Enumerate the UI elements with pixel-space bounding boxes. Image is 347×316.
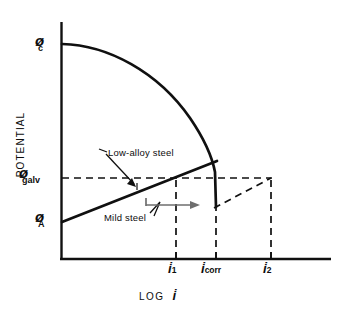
low-alloy-steel-annotation: Low-alloy steel bbox=[108, 147, 174, 158]
mild-steel-anodic-line-dashed bbox=[214, 178, 271, 208]
low-alloy-steel-arrowhead bbox=[127, 178, 136, 187]
i1-label: i̇1 bbox=[168, 261, 176, 276]
mild-steel-annotation: Mild steel bbox=[104, 212, 146, 223]
cathodic-curve bbox=[62, 44, 216, 207]
phi-galv-label: ø galv bbox=[19, 165, 40, 185]
icorr-subscript: corr bbox=[205, 265, 222, 275]
corrosion-rate-shift-arrow bbox=[146, 198, 200, 209]
phi-a-label: ø A bbox=[35, 209, 45, 229]
axis-lines bbox=[60, 22, 331, 260]
i1-subscript: 1 bbox=[172, 265, 177, 275]
i2-label: i̇2 bbox=[263, 261, 271, 276]
phi-galv-subscript: galv bbox=[22, 176, 40, 185]
x-axis-title-symbol: i̇ bbox=[169, 288, 178, 303]
icorr-label: i̇corr bbox=[201, 261, 221, 276]
x-axis-title-prefix: LOG bbox=[139, 291, 164, 302]
i2-subscript: 2 bbox=[267, 265, 272, 275]
phi-a-subscript: A bbox=[38, 220, 45, 229]
phi-c-label: ø c bbox=[35, 33, 44, 53]
mild-steel-leader bbox=[150, 202, 214, 216]
evans-polarization-diagram: POTENTIAL LOG i̇ ø c ø galv ø A i̇1 i̇co… bbox=[0, 0, 347, 316]
x-axis-title: LOG i̇ bbox=[139, 288, 178, 303]
construction-lines bbox=[62, 178, 272, 259]
